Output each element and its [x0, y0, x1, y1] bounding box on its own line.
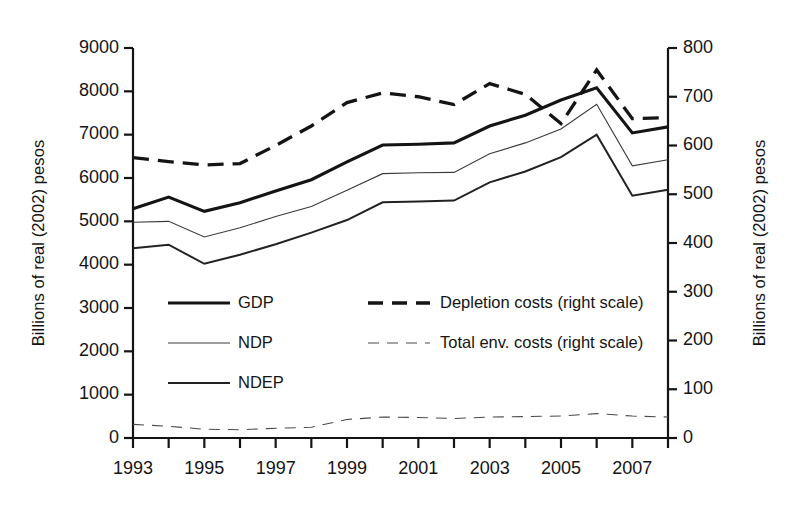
x-axis-tick-label: 1997: [256, 458, 296, 478]
y-axis-left-tick-label: 8000: [79, 80, 119, 100]
y-axis-left-tick-label: 7000: [79, 123, 119, 143]
y-axis-right-title-text: Billions of real (2002) pesos: [750, 140, 768, 347]
y-axis-left-tick-label: 6000: [79, 167, 119, 187]
chart-figure: Billions of real (2002) pesos Billions o…: [0, 0, 796, 512]
y-axis-left-tick-label: 0: [109, 427, 119, 447]
legend-label-gdp: GDP: [238, 293, 274, 311]
x-axis-tick-label: 2001: [398, 458, 438, 478]
y-axis-left-tick-label: 2000: [79, 340, 119, 360]
x-axis-tick-label: 2003: [470, 458, 510, 478]
y-axis-left-tick-label: 4000: [79, 253, 119, 273]
x-axis-tick-label: 1993: [113, 458, 153, 478]
legend-label-ndep: NDEP: [238, 373, 284, 391]
y-axis-left-tick-label: 3000: [79, 297, 119, 317]
x-axis-tick-label: 1999: [327, 458, 367, 478]
x-axis-tick-label: 1995: [184, 458, 224, 478]
legend-label-total-env-costs-right-scale: Total env. costs (right scale): [440, 333, 643, 351]
y-axis-left-tick-label: 9000: [79, 37, 119, 57]
line-chart: Billions of real (2002) pesos Billions o…: [0, 0, 796, 512]
y-axis-right-tick-label: 800: [683, 37, 713, 57]
y-axis-right-tick-label: 600: [683, 134, 713, 154]
y-axis-left-title: Billions of real (2002) pesos: [29, 140, 47, 347]
y-axis-right-tick-label: 300: [683, 281, 713, 301]
y-axis-left-title-text: Billions of real (2002) pesos: [29, 140, 47, 347]
legend-label-depletion-costs-right-scale: Depletion costs (right scale): [440, 293, 644, 311]
y-axis-right-tick-label: 500: [683, 183, 713, 203]
y-axis-right-tick-label: 400: [683, 232, 713, 252]
y-axis-right-tick-label: 100: [683, 378, 713, 398]
x-axis-tick-label: 2007: [612, 458, 652, 478]
legend-label-ndp: NDP: [238, 333, 273, 351]
x-axis-tick-label: 2005: [541, 458, 581, 478]
y-axis-left-tick-label: 1000: [79, 383, 119, 403]
chart-background: [0, 0, 796, 512]
y-axis-right-tick-label: 0: [683, 427, 693, 447]
y-axis-right-title: Billions of real (2002) pesos: [750, 140, 768, 347]
y-axis-right-tick-label: 200: [683, 329, 713, 349]
y-axis-left-tick-label: 5000: [79, 210, 119, 230]
y-axis-right-tick-label: 700: [683, 86, 713, 106]
